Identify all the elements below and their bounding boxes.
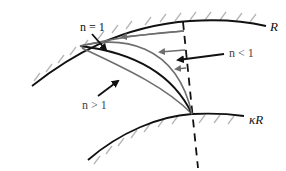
outer-boundary-hatching [34,12,256,81]
n-greater-1-pointer-arrow [98,81,118,96]
inner-arc-kappaR [88,114,244,160]
label-n-less-1: n < 1 [229,47,254,59]
dashed-radial-line [183,22,198,168]
label-outer-R: R [270,20,278,33]
label-inner-kappaR: κR [249,113,263,126]
flow-diagram [0,0,286,171]
n-less-1-pointer-arrow [178,54,224,60]
label-n-equal-1: n = 1 [80,21,105,33]
gray-flow-arrows [122,31,186,69]
label-n-greater-1: n > 1 [82,99,107,111]
